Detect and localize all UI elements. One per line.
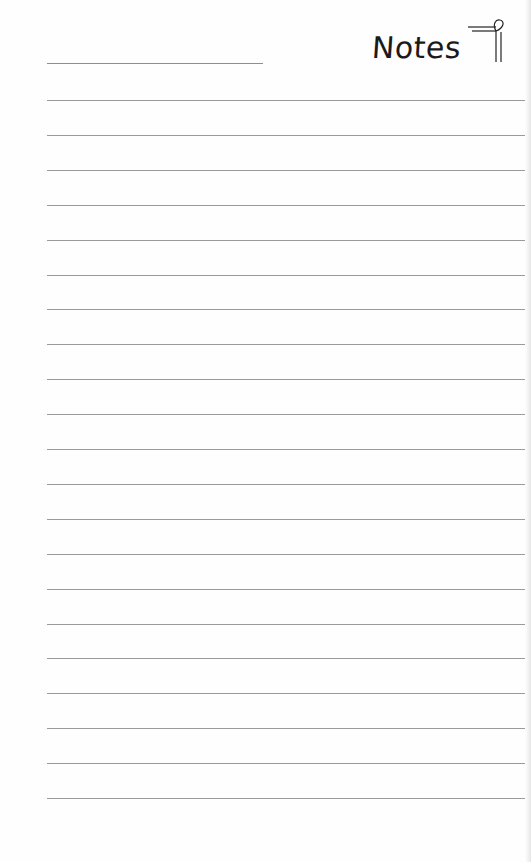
ruled-line xyxy=(47,624,525,625)
ruled-line xyxy=(47,519,525,520)
notes-page: Notes xyxy=(0,0,531,862)
ruled-line xyxy=(47,798,525,799)
ruled-line xyxy=(47,344,525,345)
ruled-line xyxy=(47,309,525,310)
ruled-line xyxy=(47,763,525,764)
ruled-line xyxy=(47,589,525,590)
ruled-line xyxy=(47,554,525,555)
ruled-line xyxy=(47,449,525,450)
ruled-line xyxy=(47,240,525,241)
ruled-line xyxy=(47,275,525,276)
ruled-line xyxy=(47,414,525,415)
page-edge-shadow xyxy=(525,0,531,862)
ruled-line xyxy=(47,205,525,206)
ruled-line xyxy=(47,135,525,136)
ruled-line xyxy=(47,379,525,380)
header-name-line xyxy=(47,63,263,64)
ruled-line xyxy=(47,693,525,694)
page-title: Notes xyxy=(371,30,463,65)
ruled-line xyxy=(47,484,525,485)
ruled-line xyxy=(47,728,525,729)
paragraph-mark-icon xyxy=(466,18,506,66)
ruled-line xyxy=(47,658,525,659)
ruled-line xyxy=(47,100,525,101)
ruled-line xyxy=(47,170,525,171)
